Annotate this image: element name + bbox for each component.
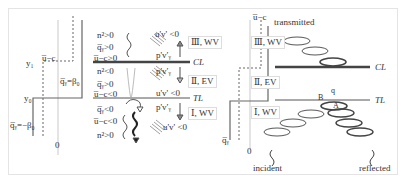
middle-momentum-flux: u'v' <0 <box>156 88 180 98</box>
upper-momentum-flux: u'v' <0 <box>155 29 179 39</box>
upper-n2: n²>0 <box>97 30 114 40</box>
critical-line-label: CL <box>193 57 204 67</box>
region-II-label: Ⅱ, EV <box>188 75 217 88</box>
zero-label-right: 0 <box>247 146 252 156</box>
u-minus-c-right: u̅−c <box>253 12 267 22</box>
upper-q: q̅ᵧ>0 <box>97 42 113 52</box>
u-minus-c-label: u̅−c <box>42 53 56 63</box>
q-label-right: q̅ᵧ <box>222 135 229 145</box>
q-positive-label: q̅ᵧ=β₀ <box>60 76 80 86</box>
point-B-label: B <box>318 93 323 103</box>
upper-u-c: u̅−c>0 <box>94 53 117 63</box>
middle-u-c: u̅−c<0 <box>94 89 117 99</box>
zero-label-left: 0 <box>55 140 60 150</box>
region-III-right: Ⅲ, WV <box>251 36 285 49</box>
lower-heat-flux: p'v′ᵧ <box>156 102 171 112</box>
middle-n2: n²<0 <box>97 66 114 76</box>
middle-heat-flux: p'v′ᵧ <box>156 66 171 76</box>
point-A-label: A <box>333 101 339 111</box>
region-III-label: Ⅲ, WV <box>188 36 222 49</box>
diagram-graphics <box>0 0 401 182</box>
lower-u-c: u̅−c<0 <box>94 116 117 126</box>
turning-line-label: TL <box>193 93 203 103</box>
turning-line-label-right: TL <box>375 95 385 105</box>
lower-q: q̅ᵧ<0 <box>97 104 113 114</box>
middle-q: q̅ᵧ>0 <box>97 79 113 89</box>
region-I-label: Ⅰ, WV <box>188 107 217 120</box>
q-negative-label: q̅ᵧ=−β₀ <box>10 120 35 130</box>
lower-n2: n²>0 <box>97 130 114 140</box>
y1-label: y₁ <box>26 58 34 68</box>
y0-label: y₀ <box>24 93 32 103</box>
region-II-right: Ⅱ, EV <box>251 76 280 89</box>
critical-line-label-right: CL <box>375 62 386 72</box>
reflected-label: reflected <box>359 163 390 173</box>
incident-label: incident <box>253 163 282 173</box>
transmitted-label: transmitted <box>274 17 315 27</box>
region-I-right: Ⅰ, WV <box>251 106 280 119</box>
upper-heat-flux: p'v′ᵧ <box>156 50 171 60</box>
q-marker-label: q <box>331 86 335 96</box>
lower-momentum-flux: u'v' <0 <box>163 122 187 132</box>
